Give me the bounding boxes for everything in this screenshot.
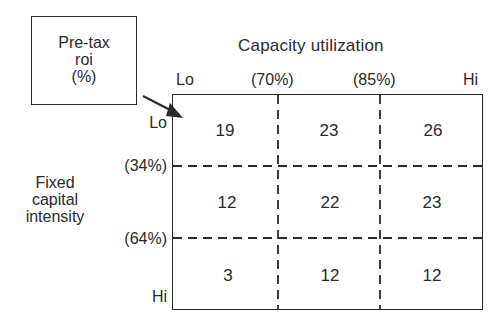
cell-r3-c2: 12 [300,266,360,286]
cell-r2-c2: 22 [300,193,360,213]
cell-r1-c2: 23 [299,121,359,141]
cell-r1-c3: 26 [403,121,463,141]
cell-r1-c1: 19 [195,121,255,141]
cell-r3-c1: 3 [198,266,258,286]
cell-r2-c3: 23 [402,193,462,213]
cell-r2-c1: 12 [197,193,257,213]
cell-r3-c3: 12 [402,266,462,286]
